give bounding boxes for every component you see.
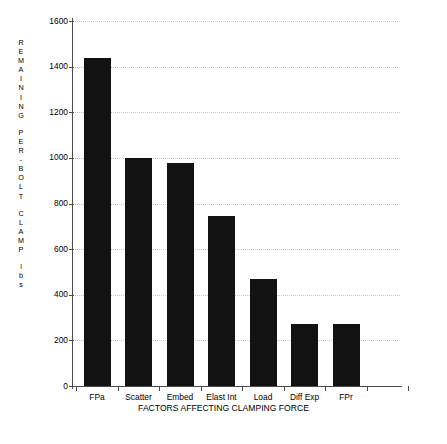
y-axis-title-char: M bbox=[12, 56, 30, 65]
x-tick-mark bbox=[408, 386, 409, 391]
y-tick-mark bbox=[69, 158, 74, 159]
y-tick-label: 0 bbox=[34, 382, 68, 390]
y-axis-title-char: A bbox=[12, 227, 30, 236]
y-axis-title-word: PER-BOLT bbox=[12, 128, 30, 201]
y-gridline bbox=[73, 158, 400, 159]
y-tick-mark bbox=[69, 67, 74, 68]
y-axis-title-word: lbs bbox=[12, 262, 30, 289]
y-tick-label: 200 bbox=[34, 336, 68, 344]
y-axis-title-char: b bbox=[12, 271, 30, 280]
y-axis-title: REMAININGPER-BOLTCLAMPlbs bbox=[12, 38, 30, 289]
y-tick-label: 1000 bbox=[34, 153, 68, 161]
y-tick-mark bbox=[69, 340, 74, 341]
y-axis-title-word-gap bbox=[12, 201, 30, 209]
y-axis-title-char: E bbox=[12, 47, 30, 56]
x-tick-mark bbox=[118, 386, 119, 391]
bar-chart: REMAININGPER-BOLTCLAMPlbs 02004006008001… bbox=[0, 0, 447, 444]
y-axis-title-char: N bbox=[12, 102, 30, 111]
y-gridline bbox=[73, 21, 400, 22]
x-axis-line bbox=[70, 386, 402, 387]
y-tick-mark bbox=[69, 249, 74, 250]
bar bbox=[84, 58, 111, 387]
y-tick-mark bbox=[69, 295, 74, 296]
y-axis-title-char: I bbox=[12, 74, 30, 83]
y-axis-title-char: G bbox=[12, 111, 30, 120]
y-gridline bbox=[73, 249, 400, 250]
y-tick-label: 800 bbox=[34, 199, 68, 207]
bar bbox=[333, 324, 360, 386]
y-axis-title-char: T bbox=[12, 192, 30, 201]
x-tick-mark bbox=[201, 386, 202, 391]
y-tick-label: 1600 bbox=[34, 17, 68, 25]
x-tick-mark bbox=[159, 386, 160, 391]
bar bbox=[250, 279, 277, 386]
y-axis-title-char: O bbox=[12, 173, 30, 182]
y-tick-label: 1200 bbox=[34, 108, 68, 116]
bar bbox=[125, 158, 152, 386]
y-axis-title-char: M bbox=[12, 236, 30, 245]
bar bbox=[167, 163, 194, 386]
y-tick-mark bbox=[69, 112, 74, 113]
y-axis-title-char: P bbox=[12, 245, 30, 254]
y-tick-label: 600 bbox=[34, 245, 68, 253]
plot-area bbox=[73, 21, 400, 386]
y-axis-title-char: R bbox=[12, 146, 30, 155]
x-axis-title: FACTORS AFFECTING CLAMPING FORCE bbox=[0, 403, 447, 413]
y-tick-mark bbox=[69, 386, 74, 387]
y-axis-tick-labels: 02004006008001000120014001600 bbox=[30, 21, 68, 386]
y-axis-title-char: l bbox=[12, 262, 30, 271]
bar bbox=[291, 324, 318, 386]
x-tick-mark bbox=[76, 386, 77, 391]
y-tick-label: 400 bbox=[34, 290, 68, 298]
y-axis-title-char: E bbox=[12, 137, 30, 146]
y-tick-label: 1400 bbox=[34, 62, 68, 70]
y-axis-title-word-gap bbox=[12, 254, 30, 262]
y-axis-title-char: L bbox=[12, 182, 30, 191]
y-axis-title-word-gap bbox=[12, 120, 30, 128]
y-tick-mark bbox=[69, 21, 74, 22]
y-axis-title-char: N bbox=[12, 83, 30, 92]
x-tick-mark bbox=[284, 386, 285, 391]
y-axis-title-word: CLAMP bbox=[12, 209, 30, 254]
x-tick-mark bbox=[242, 386, 243, 391]
y-axis-title-char: B bbox=[12, 164, 30, 173]
y-gridline bbox=[73, 67, 400, 68]
x-tick-label: FPr bbox=[306, 392, 386, 402]
y-axis-title-char: R bbox=[12, 38, 30, 47]
y-axis-title-char: I bbox=[12, 93, 30, 102]
y-gridline bbox=[73, 112, 400, 113]
bar bbox=[208, 216, 235, 386]
y-axis-title-char: s bbox=[12, 280, 30, 289]
y-axis-title-char: C bbox=[12, 209, 30, 218]
y-tick-mark bbox=[69, 204, 74, 205]
x-tick-mark bbox=[367, 386, 368, 391]
x-tick-mark bbox=[325, 386, 326, 391]
y-axis-title-char: - bbox=[12, 155, 30, 164]
y-axis-title-char: A bbox=[12, 65, 30, 74]
y-axis-title-word: REMAINING bbox=[12, 38, 30, 120]
y-axis-title-char: L bbox=[12, 218, 30, 227]
y-gridline bbox=[73, 204, 400, 205]
y-gridline bbox=[73, 295, 400, 296]
y-axis-title-char: P bbox=[12, 128, 30, 137]
